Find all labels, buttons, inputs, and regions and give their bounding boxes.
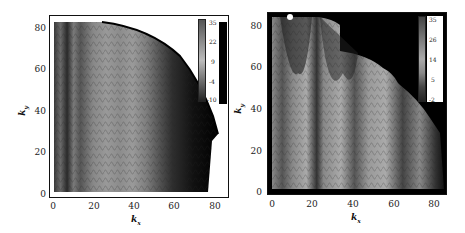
left-xtick-40: 40	[128, 201, 139, 211]
right-cbar-label-3: 5	[431, 76, 435, 83]
left-plot-area: 35 22 9 -4 -10	[49, 15, 229, 198]
left-xtick-20: 20	[88, 201, 99, 211]
left-xlabel: kx	[131, 214, 141, 226]
right-cbar-label-4: -2	[429, 96, 435, 103]
right-ytick-20: 20	[246, 146, 262, 156]
right-ylabel: ky	[233, 104, 245, 114]
right-ytick-80: 80	[246, 21, 262, 31]
right-xtick-0: 0	[269, 199, 275, 209]
left-ytick-60: 60	[30, 64, 46, 74]
right-ytick-0: 0	[246, 187, 262, 197]
right-ytick-40: 40	[246, 104, 262, 114]
left-xtick-0: 0	[50, 201, 56, 211]
left-colorbar-edge	[219, 22, 227, 104]
right-plot-area: 35 26 14 5 -2	[267, 12, 447, 195]
left-ytick-0: 0	[30, 189, 46, 199]
left-panel: 35 22 9 -4 -10 80 60 40 20 0 0 20 40 60 …	[0, 0, 232, 233]
left-ylabel: ky	[17, 106, 29, 116]
left-ytick-20: 20	[30, 147, 46, 157]
left-xtick-60: 60	[168, 201, 179, 211]
left-cbar-label-4: -10	[207, 96, 217, 103]
left-colorbar	[198, 19, 206, 102]
left-cbar-label-0: 35	[209, 19, 217, 26]
left-cbar-label-2: 9	[211, 58, 215, 65]
right-xtick-20: 20	[306, 199, 317, 209]
right-colorbar	[418, 16, 426, 102]
left-xtick-80: 80	[209, 201, 220, 211]
right-cbar-label-0: 35	[429, 16, 437, 23]
left-ytick-80: 80	[30, 23, 46, 33]
right-cbar-label-2: 14	[429, 56, 437, 63]
right-cbar-label-1: 26	[429, 36, 437, 43]
right-xlabel: kx	[351, 212, 361, 224]
left-ytick-40: 40	[30, 106, 46, 116]
right-xtick-60: 60	[388, 199, 399, 209]
right-xtick-80: 80	[428, 199, 439, 209]
right-panel: 35 26 14 5 -2 80 60 40 20 0 0 20 40 60 8…	[232, 0, 465, 233]
left-cbar-label-3: -4	[209, 78, 215, 85]
right-ytick-60: 60	[246, 62, 262, 72]
right-xtick-40: 40	[347, 199, 358, 209]
left-cbar-label-1: 22	[209, 38, 217, 45]
